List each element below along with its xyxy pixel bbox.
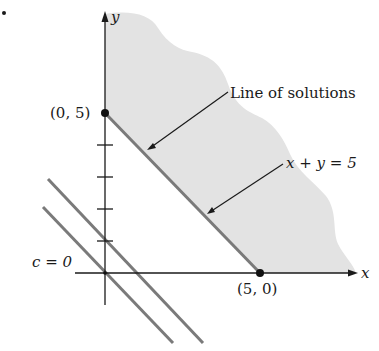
point-5-0-label: (5, 0) bbox=[237, 280, 277, 298]
point-5-0 bbox=[256, 269, 264, 277]
x-axis-label: x bbox=[361, 264, 370, 282]
point-0-5 bbox=[101, 109, 109, 117]
line-of-solutions-label: Line of solutions bbox=[230, 84, 356, 102]
point-0-5-label: (0, 5) bbox=[50, 104, 90, 122]
diagram-canvas: y x (0, 5) (5, 0) Line of solutions x + … bbox=[0, 0, 379, 351]
y-axis-label: y bbox=[110, 8, 120, 26]
feasible-region bbox=[105, 13, 356, 273]
origin-point bbox=[103, 271, 107, 275]
constraint-equation-label: x + y = 5 bbox=[286, 154, 357, 172]
level-curve-c0 bbox=[43, 207, 173, 343]
c-zero-label: c = 0 bbox=[32, 253, 73, 271]
bullet-dot bbox=[2, 11, 6, 15]
